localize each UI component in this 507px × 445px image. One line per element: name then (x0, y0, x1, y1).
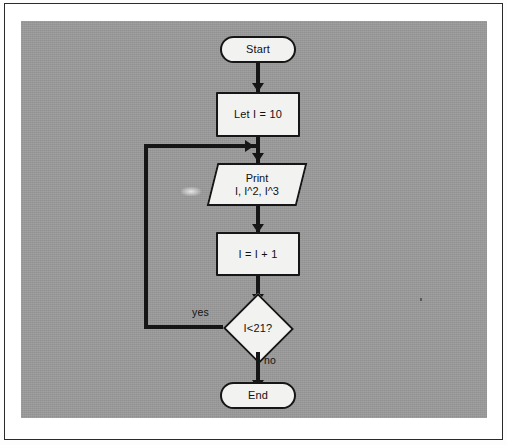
connector-loopback-bottom (144, 325, 223, 329)
node-print-label-line2: I, I^2, I^3 (235, 185, 279, 198)
node-print: Print I, I^2, I^3 (212, 163, 302, 206)
edge-label-no: no (264, 354, 276, 366)
arrowhead-loopback-into-trunk (245, 140, 254, 152)
node-increment: I = I + 1 (216, 232, 300, 276)
node-print-label-line1: Print (235, 172, 279, 185)
arrowhead-init-to-print (252, 153, 264, 162)
node-decision-label: I<21? (244, 322, 273, 334)
screenshot-root: Start Let I = 10 Print I, I^2, I^3 I = I… (0, 0, 507, 445)
node-start-label: Start (246, 43, 270, 56)
node-init-label: Let I = 10 (234, 108, 282, 121)
node-increment-label: I = I + 1 (238, 248, 277, 261)
node-init: Let I = 10 (216, 92, 300, 137)
edge-label-yes: yes (192, 306, 209, 318)
flowchart-canvas: Start Let I = 10 Print I, I^2, I^3 I = I… (21, 21, 487, 418)
node-decision: I<21? (221, 302, 295, 354)
node-end-label: End (248, 389, 268, 402)
node-start: Start (220, 36, 296, 63)
connector-loopback-top (144, 144, 256, 148)
node-print-text: Print I, I^2, I^3 (235, 172, 279, 198)
connector-loopback-riser (144, 144, 148, 329)
scan-artifact-speck (420, 298, 422, 301)
node-end: End (220, 382, 296, 409)
scan-artifact-smudge (181, 187, 201, 196)
arrowhead-start-to-init (252, 83, 264, 92)
